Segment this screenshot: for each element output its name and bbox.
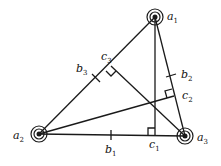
tick-b3 — [92, 74, 100, 82]
triangle-diagram: a1 a2 a3 b1 b2 b3 c1 c2 c3 — [0, 0, 221, 166]
label-b2: b2 — [181, 68, 193, 83]
right-angle-c1 — [148, 128, 155, 135]
label-a1: a1 — [167, 10, 178, 25]
label-c1: c1 — [149, 138, 160, 153]
label-b3: b3 — [76, 62, 88, 77]
side-a1-a2 — [39, 17, 155, 134]
right-angle-c3 — [106, 71, 116, 76]
tick-b2 — [166, 74, 176, 77]
label-a2: a2 — [13, 129, 24, 144]
vertex-a2 — [31, 126, 47, 142]
label-a3: a3 — [197, 131, 208, 146]
label-b1: b1 — [105, 143, 117, 158]
label-c3: c3 — [101, 50, 112, 65]
altitude-a3-c3 — [111, 66, 185, 136]
label-c2: c2 — [182, 89, 193, 104]
side-a2-a3 — [39, 134, 185, 136]
